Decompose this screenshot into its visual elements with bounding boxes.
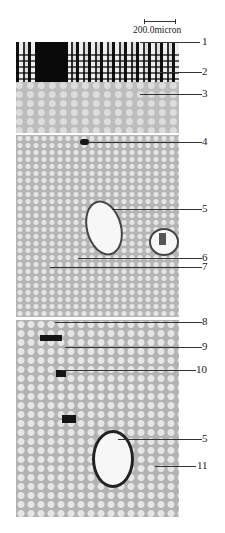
- label-8: 8: [202, 315, 208, 327]
- cell-cluster-2: [56, 370, 66, 377]
- leader-line: [55, 322, 202, 323]
- label-1: 1: [202, 35, 208, 47]
- label-11: 11: [197, 459, 208, 471]
- leader-line: [140, 94, 202, 95]
- dark-deposit: [35, 42, 68, 82]
- leader-line: [88, 142, 202, 143]
- label-10: 10: [196, 363, 207, 375]
- leader-line: [62, 370, 196, 371]
- label-5: 5: [202, 202, 208, 214]
- label-5b: 5: [202, 432, 208, 444]
- label-9: 9: [202, 340, 208, 352]
- leader-line: [65, 347, 202, 348]
- scale-bar-label: 200.0micron: [133, 25, 181, 35]
- micrograph-panel-middle: [16, 135, 179, 317]
- label-2: 2: [202, 65, 208, 77]
- leader-line: [155, 466, 196, 467]
- cortex-layer: [16, 82, 179, 133]
- leader-line: [140, 42, 200, 43]
- scale-bar: [144, 19, 176, 24]
- label-4: 4: [202, 135, 208, 147]
- leader-line: [160, 72, 202, 73]
- micrograph-panel-top: [16, 42, 179, 133]
- micrograph-panel-bottom: [16, 320, 179, 517]
- cell-cluster-3: [62, 415, 76, 423]
- leader-line: [112, 209, 202, 210]
- cell-cluster-1: [40, 335, 62, 341]
- label-7: 7: [202, 260, 208, 272]
- leader-line: [78, 258, 202, 259]
- leader-line: [50, 267, 202, 268]
- vessel-large: [79, 196, 128, 259]
- leader-line: [118, 439, 202, 440]
- label-3: 3: [202, 87, 208, 99]
- vessel-content: [159, 233, 166, 245]
